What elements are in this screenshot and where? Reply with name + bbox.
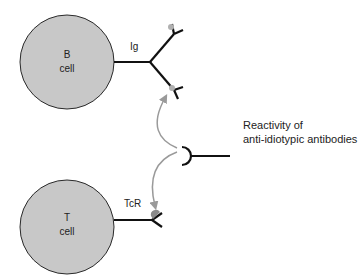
ig-idiotype-patch-upper (168, 24, 174, 30)
arrow-to-ig (157, 98, 177, 148)
arrow-to-tcr (152, 152, 177, 206)
caption: Reactivity of anti-idiotypic antibodies (243, 118, 357, 146)
b-cell-label-line1: B (64, 49, 71, 60)
t-cell: T cell (20, 180, 114, 274)
b-cell: B cell (20, 15, 114, 109)
caption-line2: anti-idiotypic antibodies (243, 132, 357, 146)
tcr-label: TcR (124, 198, 141, 209)
b-cell-body (20, 15, 114, 109)
ig-label: Ig (130, 41, 138, 52)
t-cell-label-line2: cell (59, 226, 74, 237)
b-cell-label-line2: cell (59, 63, 74, 74)
ig-idiotype-patch-lower (169, 85, 175, 91)
t-cell-label-line1: T (64, 212, 70, 223)
anti-idiotypic-antibody (182, 147, 230, 165)
caption-line1: Reactivity of (243, 118, 357, 132)
